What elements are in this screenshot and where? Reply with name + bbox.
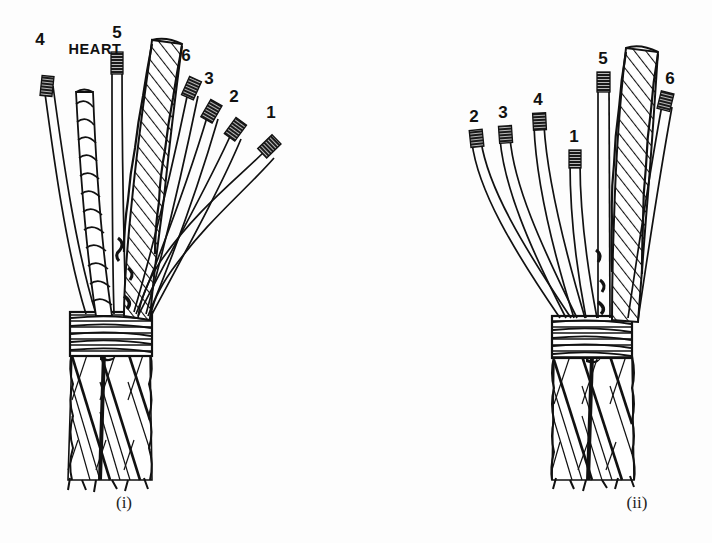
label-strand-4-i: 4: [35, 30, 45, 49]
label-strand-2-i: 2: [229, 87, 238, 106]
label-strand-1-ii: 1: [569, 127, 578, 146]
caption-panel-ii: (ii): [627, 493, 648, 512]
seizing-ii: [552, 316, 632, 363]
rope-body-i: [68, 352, 152, 492]
label-strand-3-i: 3: [204, 69, 213, 88]
label-strand-1-i: 1: [266, 103, 275, 122]
label-strand-6-i: 6: [181, 46, 190, 65]
rope-body-ii: [551, 356, 634, 491]
label-strand-3-ii: 3: [498, 103, 507, 122]
label-strand-5-ii: 5: [598, 49, 607, 68]
label-strand-5-i: 5: [112, 23, 121, 42]
wire-rope-illustration: 4 HEART 5 6 3 2 1 (i): [0, 0, 712, 543]
label-strand-6-ii: 6: [665, 69, 674, 88]
label-strand-4-ii: 4: [533, 90, 543, 109]
caption-panel-i: (i): [116, 493, 132, 512]
figure-sheet: 4 HEART 5 6 3 2 1 (i): [0, 0, 712, 543]
label-heart-i: HEART: [69, 41, 122, 57]
label-strand-2-ii: 2: [469, 107, 478, 126]
